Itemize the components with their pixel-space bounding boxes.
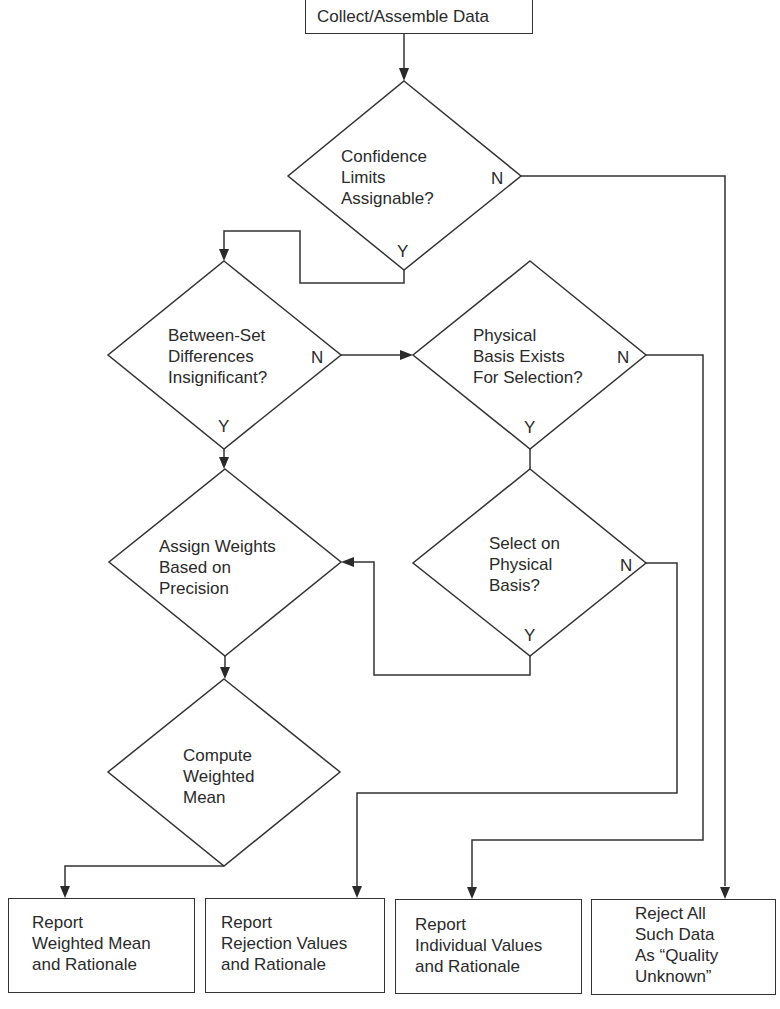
decision-label-d5: Assign Weights Based on Precision — [159, 536, 276, 599]
outcome-label: Report Rejection Values and Rationale — [221, 912, 347, 975]
decision-yes-d1: Y — [397, 243, 408, 261]
start-box: Collect/Assemble Data — [305, 0, 533, 34]
outcome-box-rejection-values: Report Rejection Values and Rationale — [205, 898, 385, 993]
decision-label-d1: Confidence Limits Assignable? — [341, 146, 434, 209]
decision-label-d4: Select on Physical Basis? — [489, 533, 560, 596]
outcome-box-individual-values: Report Individual Values and Rationale — [395, 899, 582, 994]
decision-no-d1: N — [491, 170, 503, 188]
outcome-label: Reject All Such Data As “Quality Unknown… — [635, 903, 718, 987]
start-label: Collect/Assemble Data — [317, 6, 489, 27]
decision-label-d3: Physical Basis Exists For Selection? — [473, 325, 583, 388]
decision-no-d4: N — [620, 557, 632, 575]
outcome-box-reject-all: Reject All Such Data As “Quality Unknown… — [591, 899, 776, 995]
outcome-label: Report Weighted Mean and Rationale — [32, 912, 151, 975]
decision-yes-d3: Y — [524, 419, 535, 437]
decision-label-d2: Between-Set Differences Insignificant? — [168, 325, 267, 388]
decision-yes-d4: Y — [524, 627, 535, 645]
decision-no-d2: N — [311, 349, 323, 367]
outcome-label: Report Individual Values and Rationale — [415, 914, 542, 977]
outcome-box-weighted-mean: Report Weighted Mean and Rationale — [8, 898, 195, 993]
decision-label-d6: Compute Weighted Mean — [183, 745, 255, 808]
decision-yes-d2: Y — [218, 418, 229, 436]
decision-no-d3: N — [617, 349, 629, 367]
